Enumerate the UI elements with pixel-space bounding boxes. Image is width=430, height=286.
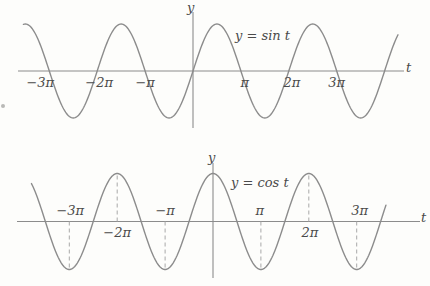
sine-t-axis-label: t (406, 61, 411, 74)
cos-tick-label: −2π (103, 226, 131, 239)
cos-tick-label: 3π (351, 204, 368, 217)
cosine-equation-label: y = cos t (231, 176, 289, 189)
cos-tick-label: π (256, 204, 265, 217)
cos-tick-label: −π (155, 204, 174, 217)
plot-canvas (0, 0, 430, 286)
trig-graphs-figure: y = sin t y t y = cos t y t −3π−2π−ππ2π3… (0, 0, 430, 286)
cos-tick-label: −3π (56, 204, 84, 217)
sine-y-axis-label: y (187, 1, 194, 14)
sin-tick-label: 2π (283, 76, 300, 89)
sin-tick-label: π (241, 76, 250, 89)
stray-margin-speck (1, 104, 5, 108)
cosine-y-axis-label: y (208, 151, 215, 164)
cos-tick-label: 2π (301, 226, 318, 239)
sin-tick-label: −2π (85, 76, 113, 89)
sin-tick-label: −π (135, 76, 154, 89)
sin-tick-label: −3π (26, 76, 54, 89)
sine-equation-label: y = sin t (235, 29, 290, 42)
cosine-t-axis-label: t (421, 211, 426, 224)
sin-tick-label: 3π (328, 76, 345, 89)
